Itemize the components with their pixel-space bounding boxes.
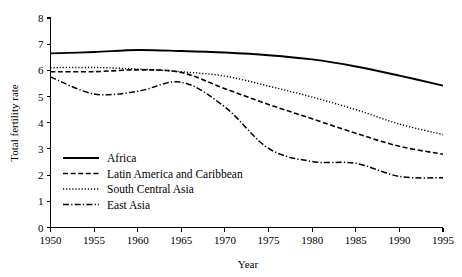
y-tick-label: 8 [38, 12, 44, 24]
legend-label: East Asia [107, 199, 150, 211]
chart-legend: AfricaLatin America and CaribbeanSouth C… [63, 152, 243, 211]
x-tick-label: 1975 [258, 234, 281, 246]
x-tick-label: 1955 [83, 234, 106, 246]
x-tick-label: 1965 [170, 234, 193, 246]
y-axis-title: Total fertility rate [8, 84, 20, 162]
x-tick-label: 1985 [345, 234, 368, 246]
x-tick-label: 1970 [214, 234, 237, 246]
x-tick-label: 1990 [388, 234, 411, 246]
y-axis: 012345678 [38, 12, 51, 234]
x-tick-label: 1960 [127, 234, 150, 246]
series-line-africa [51, 50, 444, 86]
y-tick-label: 2 [38, 169, 44, 181]
fertility-rate-line-chart: 012345678 195019551960196519701975198019… [0, 0, 462, 277]
series-line-latin-america-and-caribbean [51, 70, 444, 154]
x-tick-label: 1950 [40, 234, 63, 246]
y-tick-label: 3 [38, 143, 44, 155]
legend-label: South Central Asia [107, 183, 194, 195]
y-tick-label: 0 [38, 222, 44, 234]
legend-label: Latin America and Caribbean [107, 168, 243, 180]
y-tick-label: 4 [38, 117, 44, 129]
series-line-south-central-asia [51, 67, 444, 134]
x-axis-title: Year [238, 258, 259, 270]
chart-canvas: 012345678 195019551960196519701975198019… [0, 0, 462, 277]
y-tick-label: 5 [38, 91, 44, 103]
legend-label: Africa [107, 152, 136, 164]
x-tick-label: 1980 [301, 234, 324, 246]
x-tick-label: 1995 [432, 234, 455, 246]
x-axis: 1950195519601965197019751980198519901995 [40, 228, 455, 246]
y-tick-label: 6 [38, 64, 44, 76]
y-tick-label: 1 [38, 195, 44, 207]
y-tick-label: 7 [38, 38, 44, 50]
